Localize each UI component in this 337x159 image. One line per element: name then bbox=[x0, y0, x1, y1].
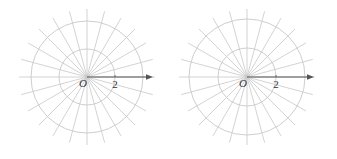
polar-grids-canvas: O2 O2 bbox=[0, 0, 337, 159]
polar-grid-left: O2 bbox=[19, 9, 155, 145]
arrow-right-icon bbox=[146, 74, 153, 80]
tick-label: 2 bbox=[112, 78, 118, 90]
arrow-right-icon bbox=[307, 74, 314, 80]
origin-label: O bbox=[79, 77, 87, 89]
polar-grid-right: O2 bbox=[179, 9, 315, 145]
tick-label: 2 bbox=[273, 78, 279, 90]
origin-label: O bbox=[239, 77, 247, 89]
